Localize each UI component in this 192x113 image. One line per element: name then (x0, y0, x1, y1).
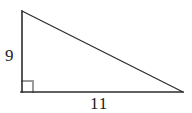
triangle-figure-canvas: 9 11 (0, 0, 192, 113)
triangle-hypotenuse (22, 11, 183, 92)
label-vertical-leg: 9 (5, 47, 14, 64)
right-angle-square-icon (22, 81, 33, 92)
label-horizontal-leg: 11 (90, 95, 108, 112)
